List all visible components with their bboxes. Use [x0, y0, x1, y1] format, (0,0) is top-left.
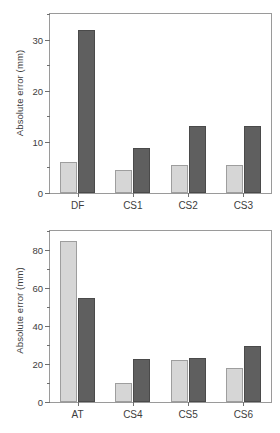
plot-area-top: 0102030DFCS1CS2CS3 — [49, 13, 272, 194]
y-axis-tick — [45, 91, 50, 92]
bar — [60, 241, 77, 403]
y-axis-tick — [45, 326, 50, 327]
y-axis-minor-tick — [47, 167, 50, 168]
bar — [133, 148, 150, 193]
x-axis-tick — [133, 193, 134, 197]
bar — [244, 346, 261, 402]
y-axis-tick — [45, 288, 50, 289]
x-axis-tick — [243, 193, 244, 197]
y-axis-tick-label: 10 — [32, 136, 43, 147]
plot-area-bottom: 020406080ATCS4CS5CS6 — [49, 230, 272, 403]
bar — [133, 359, 150, 402]
x-axis-tick-label: CS2 — [178, 200, 197, 211]
y-axis-tick-label: 20 — [32, 359, 43, 370]
bars-layer-bottom: 020406080ATCS4CS5CS6 — [50, 231, 271, 402]
bar — [189, 126, 206, 194]
y-axis-minor-tick — [47, 383, 50, 384]
y-axis-minor-tick — [47, 14, 50, 15]
bar — [244, 126, 261, 193]
bar — [115, 170, 132, 193]
y-axis-minor-tick — [47, 269, 50, 270]
y-axis-title: Absolute error (mm) — [14, 3, 28, 183]
x-axis-tick — [78, 402, 79, 406]
x-axis-tick — [188, 402, 189, 406]
bar — [226, 368, 243, 402]
bar — [60, 162, 77, 193]
y-axis-minor-tick — [47, 345, 50, 346]
bar — [115, 383, 132, 402]
bar — [189, 358, 206, 402]
bars-layer-top: 0102030DFCS1CS2CS3 — [50, 14, 271, 193]
y-axis-minor-tick — [47, 307, 50, 308]
y-axis-tick-label: 60 — [32, 283, 43, 294]
y-axis-tick — [45, 40, 50, 41]
x-axis-tick-label: DF — [71, 200, 84, 211]
chart-panel-top: Absolute error (mm) 0102030DFCS1CS2CS3 — [0, 0, 280, 218]
x-axis-tick-label: AT — [72, 409, 84, 420]
x-axis-tick — [78, 193, 79, 197]
y-axis-tick-label: 0 — [38, 397, 43, 408]
x-axis-tick-label: CS1 — [123, 200, 142, 211]
bar — [171, 360, 188, 402]
x-axis-tick-label: CS5 — [178, 409, 197, 420]
y-axis-minor-tick — [47, 116, 50, 117]
x-axis-tick — [243, 402, 244, 406]
x-axis-tick — [133, 402, 134, 406]
bar — [171, 165, 188, 193]
bar — [78, 30, 95, 193]
bar — [78, 298, 95, 402]
y-axis-tick-label: 30 — [32, 34, 43, 45]
x-axis-tick-label: CS4 — [123, 409, 142, 420]
chart-panel-bottom: Absolute error (mm) 020406080ATCS4CS5CS6 — [0, 218, 280, 433]
y-axis-title: Absolute error (mm) — [14, 223, 28, 398]
y-axis-minor-tick — [47, 65, 50, 66]
y-axis-tick — [45, 364, 50, 365]
y-axis-tick — [45, 402, 50, 403]
y-axis-tick-label: 40 — [32, 321, 43, 332]
y-axis-tick — [45, 250, 50, 251]
y-axis-tick-label: 80 — [32, 245, 43, 256]
y-axis-tick — [45, 142, 50, 143]
y-axis-tick-label: 20 — [32, 85, 43, 96]
y-axis-tick-label: 0 — [38, 188, 43, 199]
y-axis-minor-tick — [47, 231, 50, 232]
bar — [226, 165, 243, 193]
x-axis-tick-label: CS6 — [234, 409, 253, 420]
y-axis-tick — [45, 193, 50, 194]
x-axis-tick — [188, 193, 189, 197]
figure: Absolute error (mm) 0102030DFCS1CS2CS3 A… — [0, 0, 280, 433]
x-axis-tick-label: CS3 — [234, 200, 253, 211]
